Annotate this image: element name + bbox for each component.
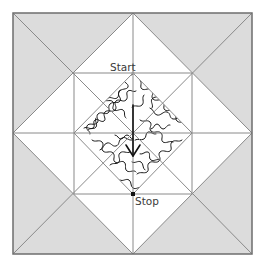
start-label: Start <box>110 61 136 73</box>
stop-label: Stop <box>135 195 159 207</box>
quilt-block-diagram: Start Stop <box>0 0 260 266</box>
